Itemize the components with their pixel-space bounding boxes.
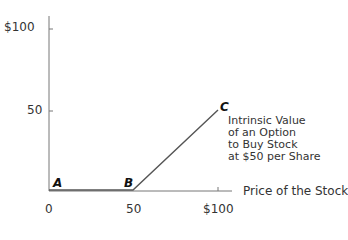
point-c-label: C — [220, 100, 229, 114]
y-tick-100: $100 — [4, 20, 35, 34]
annotation: Intrinsic Value of an Option to Buy Stoc… — [228, 115, 321, 163]
intrinsic-value-line — [49, 110, 218, 190]
x-tick-0: 0 — [45, 202, 53, 216]
x-axis-label: Price of the Stock — [243, 184, 348, 198]
annotation-line: at $50 per Share — [228, 151, 321, 163]
point-b-label: B — [124, 176, 133, 190]
x-tick-50: 50 — [126, 202, 141, 216]
x-tick-100: $100 — [203, 202, 234, 216]
y-tick-50: 50 — [27, 103, 42, 117]
point-a-label: A — [53, 176, 62, 190]
